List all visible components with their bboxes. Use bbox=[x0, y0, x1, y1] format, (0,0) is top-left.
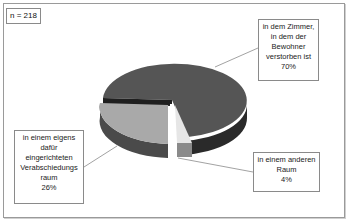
leader-line-anderer bbox=[178, 158, 253, 172]
label-verabschiedung-line: eingerichteten bbox=[17, 153, 81, 163]
label-anderer-line: in einem anderen bbox=[256, 155, 317, 165]
label-verabschiedung-line: raum bbox=[17, 173, 81, 183]
label-verabschiedung-line: dafür bbox=[17, 143, 81, 153]
label-anderer: in einem anderen Raum 4% bbox=[253, 152, 320, 192]
label-verabschiedung: in einem eigens dafür eingerichteten Ver… bbox=[14, 130, 84, 204]
label-zimmer-line: in dem der bbox=[261, 32, 316, 42]
slice-anderer-side bbox=[177, 143, 192, 157]
label-zimmer-line: Bewohner bbox=[261, 42, 316, 52]
label-anderer-line: Raum bbox=[256, 165, 317, 175]
label-zimmer-value: 70% bbox=[261, 62, 316, 72]
label-verabschiedung-line: in einem eigens bbox=[17, 133, 81, 143]
label-verabschiedung-value: 26% bbox=[17, 183, 81, 193]
sample-size-badge: n = 218 bbox=[6, 8, 41, 24]
leader-line-zimmer bbox=[215, 48, 258, 67]
label-anderer-value: 4% bbox=[256, 175, 317, 185]
leader-line-verabschiedung bbox=[84, 146, 117, 167]
label-zimmer: in dem Zimmer, in dem der Bewohner verst… bbox=[258, 19, 319, 81]
label-verabschiedung-line: Verabschiedungs bbox=[17, 163, 81, 173]
label-zimmer-line: in dem Zimmer, bbox=[261, 22, 316, 32]
label-zimmer-line: verstorben ist bbox=[261, 52, 316, 62]
